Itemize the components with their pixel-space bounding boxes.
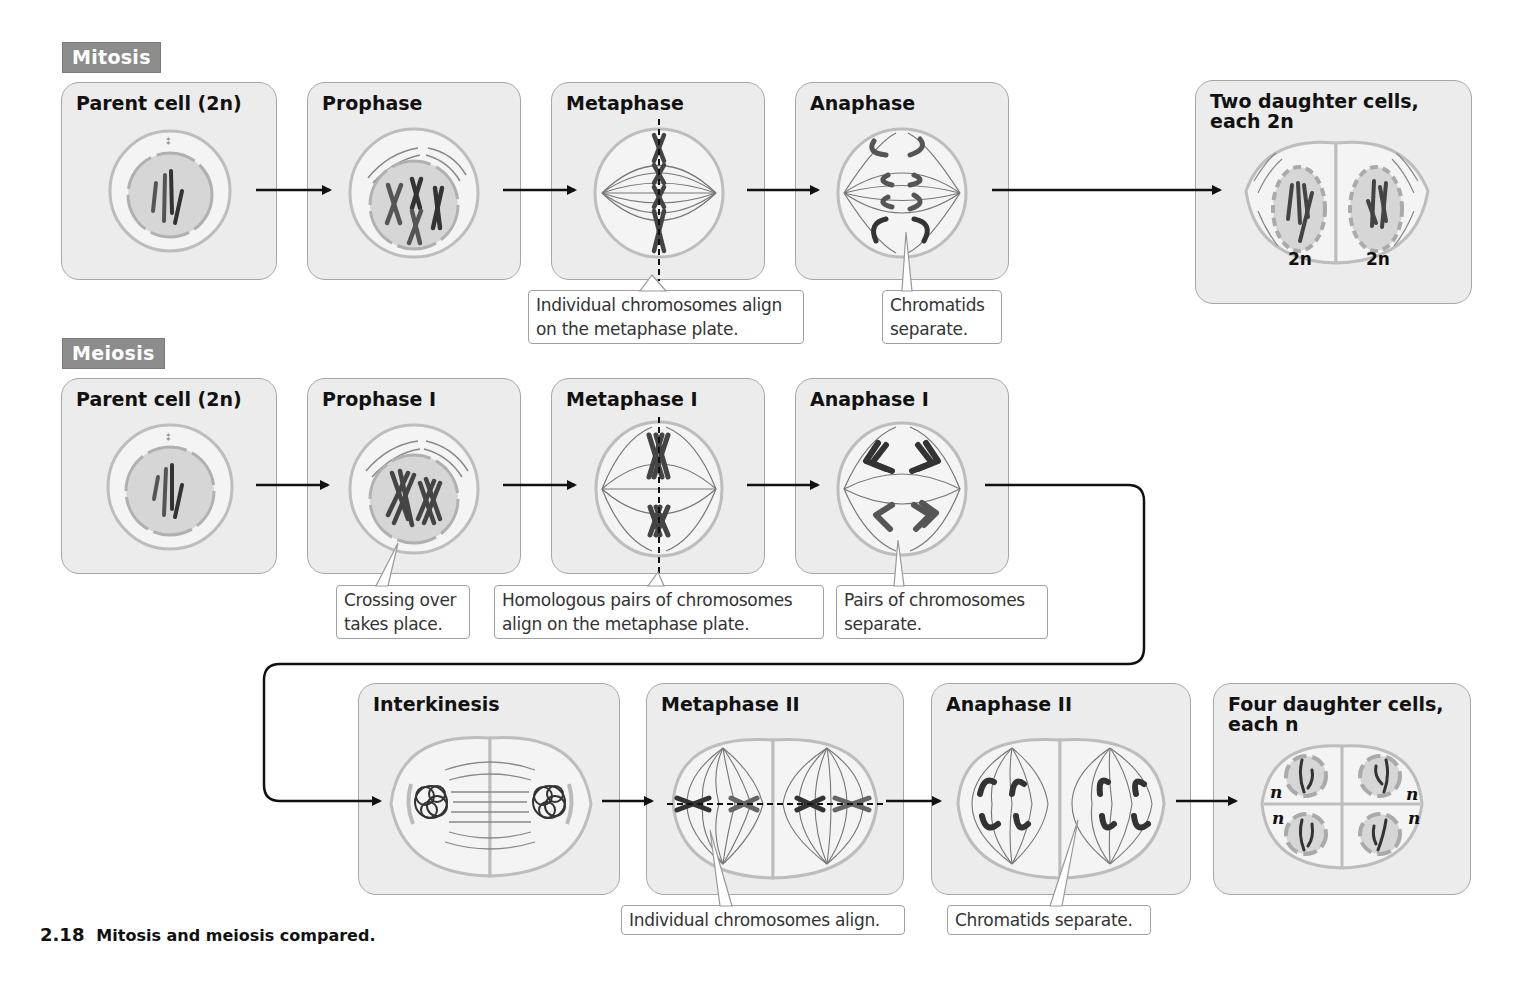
ploidy-label: n (1270, 782, 1282, 802)
svg-text:⁑: ⁑ (166, 432, 171, 443)
parent-cell-illustration: ⁑ (62, 379, 278, 575)
ploidy-label: n (1272, 808, 1284, 828)
ploidy-label: n (1406, 784, 1418, 804)
ploidy-label: 2n (1366, 249, 1390, 269)
mitosis-anaphase-panel: Anaphase (795, 82, 1009, 280)
meiosis-anaphase1-panel: Anaphase I (795, 378, 1009, 574)
callout-prophase1: Crossing over takes place. (336, 585, 470, 639)
meiosis-anaphase2-panel: Anaphase II (931, 683, 1191, 895)
meiosis-interkinesis-panel: Interkinesis (358, 683, 620, 895)
interkinesis-illustration (359, 684, 621, 896)
four-daughter-cells-illustration (1214, 684, 1472, 896)
meiosis-prophase1-panel: Prophase I (307, 378, 521, 574)
callout-metaphase1: Homologous pairs of chromosomes align on… (494, 585, 824, 639)
callout-anaphase1: Pairs of chromosomes separate. (836, 585, 1048, 639)
meiosis-daughter-cells-panel: Four daughter cells, each n n n n n (1213, 683, 1471, 895)
callout-metaphase2: Individual chromosomes align. (621, 905, 905, 935)
anaphase2-illustration (932, 684, 1192, 896)
prophase1-illustration (308, 379, 522, 575)
metaphase1-illustration (552, 379, 766, 575)
ploidy-label: 2n (1288, 249, 1312, 269)
meiosis-section-tag: Meiosis (62, 338, 165, 369)
meiosis-metaphase2-panel: Metaphase II (646, 683, 904, 895)
callout-anaphase2: Chromatids separate. (947, 905, 1151, 935)
mitosis-prophase-panel: Prophase (307, 82, 521, 280)
callout-anaphase: Chromatids separate. (882, 290, 1002, 344)
mitosis-parent-cell-panel: Parent cell (2n) ⁑ (61, 82, 277, 280)
meiosis-parent-cell-panel: Parent cell (2n) ⁑ (61, 378, 277, 574)
anaphase1-illustration (796, 379, 1010, 575)
callout-metaphase: Individual chromosomes align on the meta… (528, 290, 804, 344)
figure-number: 2.18 (40, 924, 84, 945)
metaphase-illustration (552, 83, 766, 281)
mitosis-metaphase-panel: Metaphase (551, 82, 765, 280)
prophase-illustration (308, 83, 522, 281)
svg-text:⁑: ⁑ (166, 136, 171, 147)
anaphase-illustration (796, 83, 1010, 281)
figure-caption-text: Mitosis and meiosis compared. (96, 926, 375, 945)
mitosis-daughter-cells-panel: Two daughter cells, each 2n 2n 2n (1195, 80, 1472, 304)
mitosis-section-tag: Mitosis (62, 42, 161, 73)
meiosis-metaphase1-panel: Metaphase I (551, 378, 765, 574)
figure-caption: 2.18 Mitosis and meiosis compared. (40, 924, 375, 945)
ploidy-label: n (1408, 808, 1420, 828)
parent-cell-illustration: ⁑ (62, 83, 278, 281)
two-daughter-cells-illustration (1196, 81, 1473, 305)
metaphase2-illustration (647, 684, 905, 896)
